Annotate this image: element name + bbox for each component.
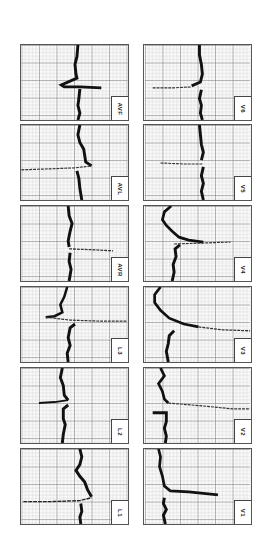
lead-label: L3 [111,338,128,362]
lead-label: AVL [111,176,128,200]
lead-label: V1 [234,500,251,524]
ecg-lead-panel-v3: V3 [143,286,252,363]
ecg-lead-panel-v4: V4 [143,205,252,282]
lead-label: V4 [234,257,251,281]
lead-label: AVF [111,96,128,120]
lead-label: V3 [234,338,251,362]
ecg-sheet: AVF AVL AVR L3 [0,0,269,548]
ecg-lead-panel-avr: AVR [20,205,129,282]
ecg-lead-panel-v5: V5 [143,124,252,201]
ecg-lead-panel-l1: L1 [20,448,129,525]
ecg-lead-panel-avl: AVL [20,124,129,201]
lead-label: V2 [234,419,251,443]
ecg-lead-panel-v1: V1 [143,448,252,525]
lead-label: V5 [234,176,251,200]
ecg-lead-panel-v6: V6 [143,44,252,121]
ecg-lead-panel-avf: AVF [20,44,129,121]
ecg-lead-panel-l3: L3 [20,286,129,363]
ecg-lead-panel-l2: L2 [20,367,129,444]
lead-label: V6 [234,96,251,120]
lead-label: AVR [111,257,128,281]
lead-label: L2 [111,419,128,443]
lead-label: L1 [111,500,128,524]
ecg-lead-panel-v2: V2 [143,367,252,444]
